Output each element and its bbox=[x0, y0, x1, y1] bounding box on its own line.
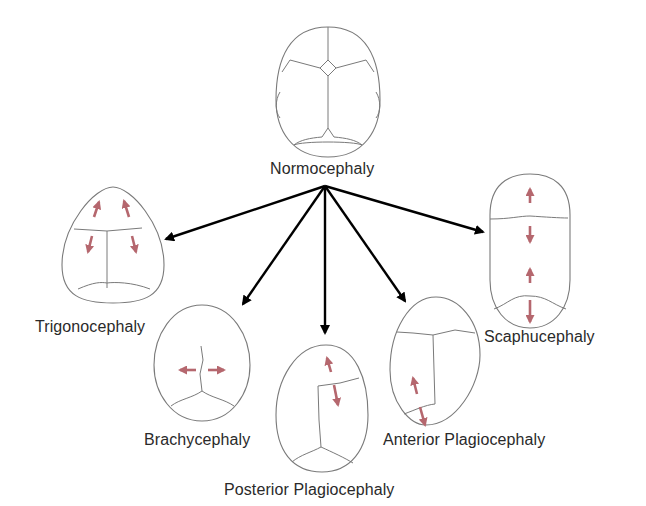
brachycephaly-skull-icon bbox=[154, 305, 250, 421]
normocephaly-skull-icon bbox=[276, 27, 380, 157]
anterior-plagiocephaly-label: Anterior Plagiocephaly bbox=[383, 431, 545, 449]
trigonocephaly-label: Trigonocephaly bbox=[35, 318, 145, 336]
anterior-plagiocephaly-skull-icon bbox=[390, 297, 480, 425]
brachycephaly-label: Brachycephaly bbox=[144, 431, 250, 449]
trigonocephaly-skull-icon bbox=[62, 187, 164, 303]
scaphucephaly-skull-icon bbox=[490, 174, 570, 328]
normocephaly-label: Normocephaly bbox=[270, 160, 374, 178]
flow-arrows bbox=[166, 186, 483, 333]
posterior-plagiocephaly-skull-icon bbox=[276, 345, 368, 472]
scaphucephaly-label: Scaphucephaly bbox=[484, 328, 595, 346]
posterior-plagiocephaly-label: Posterior Plagiocephaly bbox=[224, 481, 394, 499]
diagram-canvas bbox=[0, 0, 646, 506]
